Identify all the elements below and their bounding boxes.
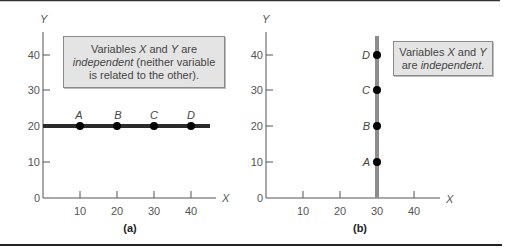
- y-tick-30: 30: [251, 84, 263, 96]
- point-b: [113, 122, 121, 130]
- point-c-label: C: [362, 84, 370, 96]
- point-c: [150, 122, 158, 130]
- annotation-a-line1: Variables X and Y are: [64, 43, 224, 56]
- point-d: [187, 122, 195, 130]
- point-a-label: A: [74, 109, 82, 121]
- y-axis-label: Y: [262, 13, 270, 25]
- x-tick-40: 40: [185, 205, 197, 217]
- y-axis-label: Y: [40, 13, 48, 25]
- annotation-a-line2: independent (neither variable: [64, 56, 224, 69]
- annotation-box-a: Variables X and Y are independent (neith…: [63, 36, 225, 88]
- point-c-label: C: [150, 109, 158, 121]
- point-a: [373, 158, 381, 166]
- annotation-b-line2: are independent.: [394, 59, 492, 72]
- point-d: [373, 51, 381, 59]
- x-tick-20: 20: [334, 205, 346, 217]
- x-tick-10: 10: [74, 205, 86, 217]
- x-tick-40: 40: [408, 205, 420, 217]
- point-d-label: D: [187, 109, 195, 121]
- point-b-label: B: [114, 109, 121, 121]
- x-tick-30: 30: [148, 205, 160, 217]
- annotation-b-line1: Variables X and Y: [394, 46, 492, 59]
- y-tick-20: 20: [251, 120, 263, 132]
- y-tick-40: 40: [28, 49, 40, 61]
- point-a: [76, 122, 84, 130]
- point-a-label: A: [362, 156, 370, 168]
- y-tick-20: 20: [28, 120, 40, 132]
- point-c: [373, 86, 381, 94]
- y-tick-30: 30: [28, 84, 40, 96]
- x-axis-label: X: [445, 193, 454, 205]
- annotation-a-line3: is related to the other).: [64, 69, 224, 82]
- y-tick-0: 0: [257, 192, 263, 204]
- point-b-label: B: [363, 120, 370, 132]
- y-tick-10: 10: [251, 156, 263, 168]
- point-b: [373, 122, 381, 130]
- panel-a-caption: (a): [123, 222, 137, 234]
- annotation-box-b: Variables X and Y are independent.: [393, 41, 493, 76]
- x-tick-10: 10: [297, 205, 309, 217]
- y-tick-0: 0: [34, 192, 40, 204]
- panel-b-caption: (b): [353, 222, 367, 234]
- y-tick-10: 10: [28, 156, 40, 168]
- x-axis-label: X: [221, 192, 230, 204]
- x-tick-20: 20: [111, 205, 123, 217]
- x-tick-30: 30: [371, 205, 383, 217]
- point-d-label: D: [362, 49, 370, 61]
- y-tick-40: 40: [251, 49, 263, 61]
